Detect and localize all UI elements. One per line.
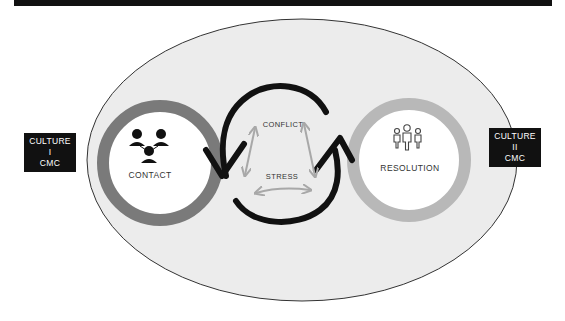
conflict-label: CONFLICT xyxy=(258,120,308,129)
culture-ii-label: CULTURE II CMC xyxy=(489,128,541,167)
culture-i-line1: CULTURE I xyxy=(28,136,72,158)
culture-i-label: CULTURE I CMC xyxy=(24,133,76,172)
contact-label: CONTACT xyxy=(125,170,175,180)
stress-label: STRESS xyxy=(257,172,307,181)
diagram-canvas xyxy=(0,0,565,321)
culture-ii-line1: CULTURE II xyxy=(493,131,537,153)
contact-ring xyxy=(103,106,217,220)
resolution-ring xyxy=(353,104,465,216)
resolution-label: RESOLUTION xyxy=(380,163,440,173)
culture-ii-line2: CMC xyxy=(493,153,537,164)
culture-i-line2: CMC xyxy=(28,158,72,169)
